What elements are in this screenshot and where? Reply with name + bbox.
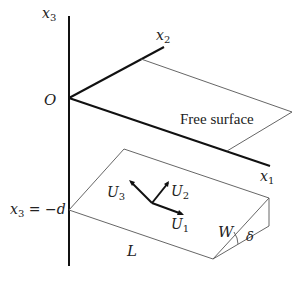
dip-label: δ bbox=[246, 229, 254, 244]
u1-arrowhead-icon bbox=[177, 210, 184, 215]
u2-label: U2 bbox=[171, 183, 189, 201]
depth-label: x3 = −d bbox=[10, 201, 66, 219]
u1-label: U1 bbox=[171, 216, 189, 234]
u1-vector bbox=[152, 203, 182, 214]
length-label: L bbox=[126, 242, 137, 260]
x2-axis-label: x2 bbox=[156, 27, 170, 45]
free-surface-label: Free surface bbox=[180, 111, 254, 127]
origin-label: O bbox=[44, 91, 56, 109]
fault-geometry-diagram: x3 x2 x1 O Free surface x3 = −d U3 U2 U1… bbox=[0, 0, 308, 281]
x1-axis bbox=[69, 98, 270, 166]
x3-axis-label: x3 bbox=[42, 5, 56, 23]
width-label: W bbox=[218, 223, 235, 241]
u3-vector bbox=[131, 182, 152, 203]
fault-plane bbox=[69, 149, 269, 259]
x2-axis bbox=[69, 47, 164, 98]
u3-label: U3 bbox=[107, 184, 125, 202]
x1-axis-label: x1 bbox=[260, 168, 274, 186]
u2-vector bbox=[152, 183, 168, 203]
free-surface-outline bbox=[141, 59, 292, 151]
